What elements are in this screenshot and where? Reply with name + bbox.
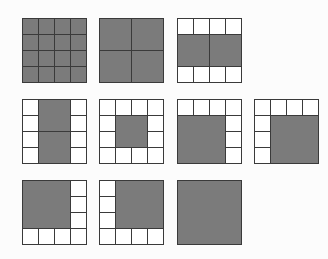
gray-block [54, 34, 71, 51]
grid-8 [22, 180, 86, 244]
white-cell [99, 131, 116, 148]
white-cell [225, 147, 242, 164]
gray-block [131, 50, 164, 83]
gray-block [38, 131, 71, 164]
white-cell [70, 131, 87, 148]
white-cell [177, 18, 194, 35]
white-cell [131, 99, 148, 116]
white-cell [70, 99, 87, 116]
white-cell [209, 66, 226, 83]
white-cell [254, 131, 271, 148]
white-cell [209, 18, 226, 35]
white-cell [22, 228, 39, 245]
white-cell [225, 131, 242, 148]
gray-block [54, 18, 71, 35]
white-cell [38, 228, 55, 245]
gray-block [22, 66, 39, 83]
white-cell [99, 196, 116, 213]
white-cell [22, 131, 39, 148]
white-cell [254, 99, 271, 116]
gray-block [22, 50, 39, 67]
white-cell [147, 131, 164, 148]
white-cell [54, 228, 71, 245]
grid-partition-figure [0, 0, 328, 259]
white-cell [22, 147, 39, 164]
grid-2 [99, 18, 163, 82]
gray-block [270, 115, 319, 164]
white-cell [147, 99, 164, 116]
white-cell [147, 228, 164, 245]
white-cell [70, 147, 87, 164]
white-cell [70, 115, 87, 132]
white-cell [209, 99, 226, 116]
gray-block [38, 34, 55, 51]
grid-4 [22, 99, 86, 163]
gray-block [38, 66, 55, 83]
grid-7 [254, 99, 318, 163]
white-cell [70, 212, 87, 229]
gray-block [70, 34, 87, 51]
gray-block [22, 180, 71, 229]
white-cell [147, 115, 164, 132]
gray-block [70, 66, 87, 83]
gray-block [22, 18, 39, 35]
white-cell [115, 99, 132, 116]
grid-1 [22, 18, 86, 82]
white-cell [99, 147, 116, 164]
white-cell [147, 147, 164, 164]
white-cell [70, 196, 87, 213]
white-cell [99, 228, 116, 245]
grid-5 [99, 99, 163, 163]
gray-block [99, 18, 132, 51]
gray-block [177, 34, 210, 67]
white-cell [254, 147, 271, 164]
white-cell [225, 115, 242, 132]
gray-block [115, 180, 164, 229]
gray-block [177, 115, 226, 164]
white-cell [286, 99, 303, 116]
white-cell [225, 66, 242, 83]
white-cell [177, 66, 194, 83]
gray-block [70, 18, 87, 35]
gray-block [54, 50, 71, 67]
grid-3 [177, 18, 241, 82]
white-cell [270, 99, 287, 116]
gray-block [209, 34, 242, 67]
white-cell [115, 147, 132, 164]
gray-block [131, 18, 164, 51]
white-cell [70, 228, 87, 245]
gray-block [54, 66, 71, 83]
white-cell [99, 99, 116, 116]
white-cell [302, 99, 319, 116]
grid-6 [177, 99, 241, 163]
gray-block [99, 50, 132, 83]
white-cell [193, 66, 210, 83]
white-cell [99, 115, 116, 132]
white-cell [22, 99, 39, 116]
grid-10 [177, 180, 241, 244]
white-cell [115, 228, 132, 245]
white-cell [99, 212, 116, 229]
white-cell [193, 18, 210, 35]
white-cell [225, 18, 242, 35]
white-cell [70, 180, 87, 197]
white-cell [225, 99, 242, 116]
gray-block [70, 50, 87, 67]
gray-block [38, 18, 55, 35]
gray-block [38, 99, 71, 132]
gray-block [38, 50, 55, 67]
gray-block [177, 180, 242, 245]
white-cell [177, 99, 194, 116]
white-cell [22, 115, 39, 132]
white-cell [131, 228, 148, 245]
white-cell [254, 115, 271, 132]
white-cell [131, 147, 148, 164]
gray-block [115, 115, 148, 148]
white-cell [99, 180, 116, 197]
grid-9 [99, 180, 163, 244]
gray-block [22, 34, 39, 51]
white-cell [193, 99, 210, 116]
